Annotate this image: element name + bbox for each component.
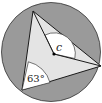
inscribed-angle-label: 63° [27, 73, 45, 84]
central-angle-label: c [56, 41, 62, 54]
diagram: c 63° [0, 0, 102, 103]
